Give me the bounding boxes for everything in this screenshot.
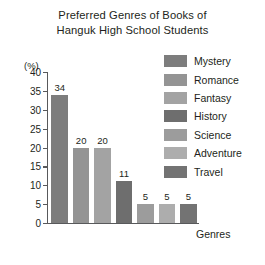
y-tick-label: 35: [30, 85, 41, 96]
legend-swatch-icon: [164, 55, 187, 67]
chart-title-line-1: Preferred Genres of Books of: [0, 8, 265, 23]
y-tick-label: 30: [30, 104, 41, 115]
x-axis-line: [47, 223, 199, 224]
legend-item-label: Fantasy: [194, 92, 231, 104]
y-tick-mark: [43, 166, 47, 167]
y-tick-mark: [43, 110, 47, 111]
y-tick-mark: [43, 148, 47, 149]
y-tick-label: 15: [30, 161, 41, 172]
legend-item: Romance: [164, 70, 242, 88]
y-tick-label: 20: [30, 142, 41, 153]
x-axis-title: Genres: [196, 228, 230, 240]
legend-item-label: Adventure: [194, 147, 242, 159]
bar: 5: [180, 204, 197, 223]
bar: 11: [116, 181, 133, 223]
bar-chart: Preferred Genres of Books of Hanguk High…: [0, 0, 265, 265]
legend-item: Science: [164, 126, 242, 144]
chart-title: Preferred Genres of Books of Hanguk High…: [0, 8, 265, 37]
legend: MysteryRomanceFantasyHistoryScienceAdven…: [164, 52, 242, 181]
legend-item: History: [164, 107, 242, 125]
legend-item: Travel: [164, 162, 242, 180]
bar: 5: [137, 204, 154, 223]
legend-swatch-icon: [164, 74, 187, 86]
y-tick-mark: [43, 91, 47, 92]
y-tick-mark: [43, 185, 47, 186]
y-tick-mark: [43, 223, 47, 224]
bar-value-label: 5: [186, 191, 191, 202]
legend-swatch-icon: [164, 147, 187, 159]
legend-swatch-icon: [164, 110, 187, 122]
legend-item-label: History: [194, 110, 227, 122]
bar-value-label: 5: [164, 191, 169, 202]
bar: 5: [159, 204, 176, 223]
bar: 20: [73, 148, 90, 224]
bar: 34: [51, 95, 68, 223]
y-tick-label: 0: [35, 218, 41, 229]
y-tick-label: 25: [30, 123, 41, 134]
bar-value-label: 5: [143, 191, 148, 202]
legend-item-label: Mystery: [194, 55, 231, 67]
legend-item: Mystery: [164, 52, 242, 70]
chart-title-line-2: Hanguk High School Students: [0, 23, 265, 38]
legend-item: Fantasy: [164, 89, 242, 107]
legend-swatch-icon: [164, 129, 187, 141]
bar: 20: [94, 148, 111, 224]
y-tick-mark: [43, 129, 47, 130]
legend-item-label: Romance: [194, 74, 239, 86]
y-tick-mark: [43, 72, 47, 73]
legend-item-label: Science: [194, 129, 231, 141]
legend-item: Adventure: [164, 144, 242, 162]
legend-swatch-icon: [164, 92, 187, 104]
y-tick-label: 5: [35, 199, 41, 210]
y-tick-label: 10: [30, 180, 41, 191]
bar-value-label: 20: [97, 135, 108, 146]
y-tick-mark: [43, 204, 47, 205]
bar-value-label: 20: [76, 135, 87, 146]
bar-value-label: 11: [119, 168, 129, 179]
y-tick-label: 40: [30, 67, 41, 78]
legend-swatch-icon: [164, 166, 187, 178]
bar-value-label: 34: [54, 82, 65, 93]
legend-item-label: Travel: [194, 166, 223, 178]
